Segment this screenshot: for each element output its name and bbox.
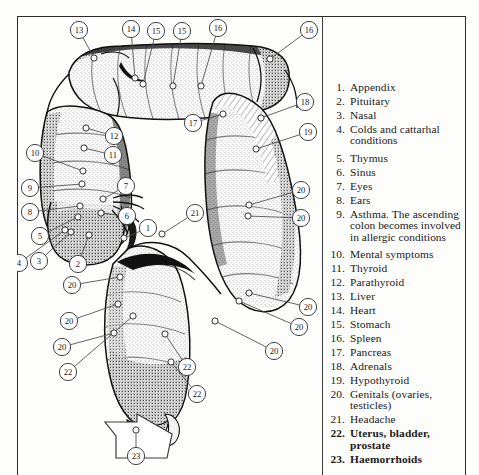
callout-number: 20 [297,185,306,195]
callout-target-ring [246,202,252,208]
legend-item-number: 12. [328,277,350,288]
callout-marker-20[interactable]: 20 [292,209,309,226]
legend-item-number: 15. [328,319,350,330]
callout-marker-1[interactable]: 1 [139,219,156,236]
legend-item: 7.Eyes [328,181,464,192]
callout-marker-15[interactable]: 15 [147,22,164,39]
callout-marker-11[interactable]: 11 [104,146,121,163]
legend-item: 1.Appendix [328,82,464,93]
callout-number: 13 [75,25,84,35]
callout-marker-20[interactable]: 20 [299,298,316,315]
callout-marker-3[interactable]: 3 [30,252,47,269]
callout-marker-20[interactable]: 20 [292,181,309,198]
callout-marker-18[interactable]: 18 [296,93,313,110]
callout-target-ring [79,181,85,187]
legend-item-number: 1. [328,82,350,93]
legend-item-number: 18. [328,361,350,372]
callout-target-ring [253,146,259,152]
legend-item-label: Heart [350,305,464,316]
callout-marker-13[interactable]: 13 [70,21,87,38]
callout-target-ring [75,214,81,220]
legend-item-label: Haemorrhoids [350,454,464,465]
callout-target-ring [245,213,251,219]
callout-target-ring [212,318,218,324]
legend-item: 23.Haemorrhoids [328,454,464,465]
callout-target-ring [81,145,87,151]
legend-item-number: 6. [328,167,350,178]
callout-marker-8[interactable]: 8 [21,203,38,220]
callout-number: 1 [146,223,150,233]
callout-target-ring [159,231,165,237]
callout-target-ring [100,196,106,202]
callout-marker-20[interactable]: 20 [63,276,80,293]
legend-item-label: Thyroid [350,263,464,274]
legend-item-label: Mental symptoms [350,249,464,260]
legend-item-label: Pancreas [350,347,464,358]
callout-target-ring [236,298,242,304]
legend-item-label: Genitals (ovaries, testicles) [350,389,464,412]
legend-item-number: 3. [328,110,350,121]
frame-border-right [465,16,466,475]
legend-item-label: Thymus [350,153,464,164]
callout-marker-22[interactable]: 22 [59,363,76,380]
callout-target-ring [168,359,174,365]
callout-target-ring [170,83,176,89]
callout-target-ring [115,301,121,307]
callout-marker-19[interactable]: 19 [299,123,316,140]
callout-number: 5 [38,231,42,241]
callout-leader-line [218,322,267,347]
callout-marker-17[interactable]: 17 [184,114,201,131]
legend-item-number: 23. [328,454,350,465]
callout-number: 6 [125,211,130,221]
callout-number: 17 [189,118,198,128]
legend-item-label: Sinus [350,167,464,178]
callout-target-ring [198,83,204,89]
callout-marker-6[interactable]: 6 [118,207,135,224]
callout-number: 15 [178,26,187,36]
callout-marker-20[interactable]: 20 [265,342,282,359]
callout-number: 22 [183,362,192,372]
callout-target-ring [162,331,168,337]
callout-target-ring [80,168,86,174]
callout-target-ring [111,330,117,336]
callout-marker-4[interactable]: 4 [17,254,28,271]
legend-item-continuation: in allergic conditions [328,232,464,243]
callout-marker-15[interactable]: 15 [173,22,190,39]
callout-marker-23[interactable]: 23 [127,447,144,464]
legend-item-label: Appendix [350,82,464,93]
callout-marker-21[interactable]: 21 [186,204,203,221]
callout-target-ring [83,125,89,131]
legend-item-number: 14. [328,305,350,316]
callout-marker-22[interactable]: 22 [178,358,195,375]
legend-item: 20.Genitals (ovaries, testicles) [328,389,464,412]
callout-marker-5[interactable]: 5 [31,227,48,244]
callout-marker-16[interactable]: 16 [209,19,226,36]
legend-item-label: Nasal [350,110,464,121]
legend-item-label: Eyes [350,181,464,192]
callout-number: 7 [124,181,129,191]
callout-target-ring [140,81,146,87]
callout-target-ring [258,115,264,121]
legend-item: 18.Adrenals [328,361,464,372]
legend-item-number: 22. [328,428,350,439]
callout-marker-20[interactable]: 20 [290,318,307,335]
callout-target-ring [91,55,97,61]
callout-marker-12[interactable]: 12 [105,127,122,144]
legend-item-number: 17. [328,347,350,358]
legend-item: 6.Sinus [328,167,464,178]
callout-marker-14[interactable]: 14 [122,20,139,37]
callout-marker-10[interactable]: 10 [26,144,43,161]
callout-marker-20[interactable]: 20 [53,338,70,355]
callout-target-ring [98,210,104,216]
callout-marker-9[interactable]: 9 [21,179,38,196]
callout-marker-20[interactable]: 20 [60,312,77,329]
callout-marker-16[interactable]: 16 [300,21,317,38]
legend-item-number: 19. [328,375,350,386]
legend-item-number: 5. [328,153,350,164]
callout-marker-7[interactable]: 7 [117,177,134,194]
legend-item-number: 11. [328,263,350,274]
callout-marker-2[interactable]: 2 [69,255,86,272]
callout-marker-22[interactable]: 22 [188,385,205,402]
callout-number: 16 [214,23,223,33]
legend-item-label: Pituitary [350,96,464,107]
